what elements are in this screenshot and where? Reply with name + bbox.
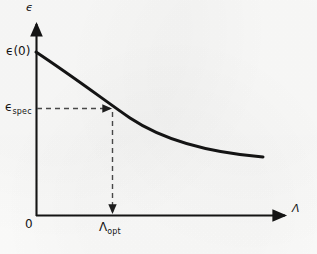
epsilon-spec-subscript: spec: [12, 107, 31, 116]
lambda-opt-base: Λ: [99, 220, 107, 234]
epsilon-zero-base: ϵ(0): [6, 44, 30, 58]
epsilon-curve: [36, 52, 263, 157]
y-axis-label: ϵ: [26, 2, 33, 13]
plot-canvas: [0, 0, 317, 254]
figure-root: ϵ Λ ϵ(0) ϵspec 0 Λopt: [0, 0, 317, 254]
epsilon-zero-label: ϵ(0): [6, 45, 30, 57]
epsilon-spec-label: ϵspec: [5, 101, 32, 113]
lambda-opt-label: Λopt: [99, 221, 121, 233]
origin-label: 0: [25, 218, 33, 230]
x-axis-label: Λ: [292, 203, 300, 214]
lambda-opt-subscript: opt: [107, 227, 121, 236]
